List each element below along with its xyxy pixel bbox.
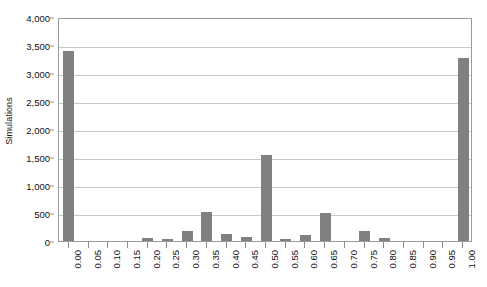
y-axis-tick: 2,500 (26, 97, 50, 108)
bar (458, 58, 469, 241)
x-axis-tick: 0.35 (210, 250, 221, 269)
x-axis-tick: 0.20 (151, 250, 162, 269)
bar (359, 231, 370, 241)
x-axis-tick-mark (364, 242, 365, 248)
y-axis-tick-mark (50, 186, 54, 187)
plot-area (58, 18, 472, 242)
bar (182, 231, 193, 241)
x-axis-tick: 0.95 (446, 250, 457, 269)
bar (241, 237, 252, 241)
x-axis-tick: 0.15 (131, 250, 142, 269)
x-axis-tick-mark (462, 242, 463, 248)
x-axis-tick-mark (265, 242, 266, 248)
y-axis-tick-mark (50, 158, 54, 159)
y-axis-tick-mark (50, 74, 54, 75)
x-axis-tick: 0.50 (269, 250, 280, 269)
y-axis-tick-labels: 05001,0001,5002,0002,5003,0003,5004,000 (16, 18, 54, 242)
y-axis-tick: 3,500 (26, 41, 50, 52)
x-axis-tick: 0.00 (72, 250, 83, 269)
x-axis-tick-mark (127, 242, 128, 248)
bar (201, 212, 212, 241)
y-axis-tick: 2,000 (26, 125, 50, 136)
x-axis-tick-mark (245, 242, 246, 248)
y-axis-tick: 500 (34, 209, 50, 220)
x-axis-tick: 0.55 (289, 250, 300, 269)
bar (300, 235, 311, 241)
x-axis-tick-mark (442, 242, 443, 248)
bar (379, 238, 390, 241)
x-axis-tick: 1.00 (466, 250, 477, 269)
y-axis-tick-mark (50, 214, 54, 215)
x-axis-tick: 0.85 (407, 250, 418, 269)
x-axis-tick: 0.40 (230, 250, 241, 269)
x-axis-tick: 0.25 (170, 250, 181, 269)
x-axis-tick: 0.30 (190, 250, 201, 269)
bar (320, 213, 331, 241)
x-axis-tick-mark (88, 242, 89, 248)
x-axis-tick-mark (186, 242, 187, 248)
x-axis-tick-mark (304, 242, 305, 248)
x-axis-tick-labels: 0.000.050.100.150.200.250.300.350.400.45… (58, 250, 472, 287)
x-axis-tick: 0.70 (348, 250, 359, 269)
x-axis-tick-mark (324, 242, 325, 248)
simulations-histogram: Simulations 05001,0001,5002,0002,5003,00… (0, 0, 487, 287)
bar (142, 238, 153, 241)
x-axis-tick-mark (403, 242, 404, 248)
x-axis-tick: 0.45 (249, 250, 260, 269)
x-axis-tick-mark (285, 242, 286, 248)
x-axis-tick-mark (423, 242, 424, 248)
x-axis-tick: 0.05 (92, 250, 103, 269)
y-axis-tick-mark (50, 102, 54, 103)
y-axis-title-label: Simulations (4, 97, 14, 145)
y-axis-tick: 3,000 (26, 69, 50, 80)
bar-series (59, 19, 471, 241)
x-axis-tick-mark (383, 242, 384, 248)
y-axis-tick: 4,000 (26, 13, 50, 24)
x-axis-tick: 0.60 (308, 250, 319, 269)
x-axis-tick-marks (58, 242, 472, 249)
y-axis-tick-mark (50, 46, 54, 47)
x-axis-tick-mark (344, 242, 345, 248)
y-axis-tick: 1,500 (26, 153, 50, 164)
x-axis-tick: 0.75 (368, 250, 379, 269)
x-axis-tick-mark (166, 242, 167, 248)
x-axis-tick-mark (206, 242, 207, 248)
bar (162, 239, 173, 241)
x-axis-tick-mark (68, 242, 69, 248)
bar (261, 155, 272, 241)
y-axis-tick: 1,000 (26, 181, 50, 192)
y-axis-tick-mark (50, 130, 54, 131)
x-axis-tick: 0.80 (387, 250, 398, 269)
x-axis-tick: 0.10 (111, 250, 122, 269)
x-axis-tick-mark (147, 242, 148, 248)
y-axis-tick-mark (50, 18, 54, 19)
y-axis-tick-mark (50, 242, 54, 243)
x-axis-tick-mark (107, 242, 108, 248)
x-axis-tick-mark (226, 242, 227, 248)
bar (221, 234, 232, 241)
bar (63, 51, 74, 241)
bar (280, 239, 291, 241)
x-axis-tick: 0.65 (328, 250, 339, 269)
x-axis-tick: 0.90 (427, 250, 438, 269)
